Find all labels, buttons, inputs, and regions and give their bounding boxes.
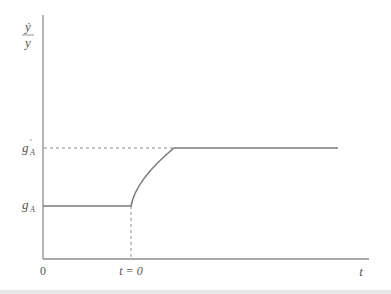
y-tick-g-prime-a: g ′ A [22, 138, 35, 157]
growth-rate-line [43, 148, 338, 206]
svg-text:y: y [23, 35, 31, 50]
svg-text:A: A [29, 205, 35, 214]
svg-text:g: g [22, 140, 29, 155]
x-axis-label: t [359, 264, 363, 279]
svg-text:A: A [29, 148, 35, 157]
bottom-border [0, 290, 391, 294]
chart: ẏ y g ′ A g A 0 t = 0 t [0, 0, 391, 294]
y-axis-label: ẏ y [22, 19, 34, 50]
x-tick-t-zero: t = 0 [119, 264, 142, 278]
x-tick-origin: 0 [40, 264, 46, 278]
svg-text:g: g [22, 197, 29, 212]
svg-text:ẏ: ẏ [23, 19, 31, 34]
y-tick-g-a: g A [22, 197, 35, 214]
svg-text:′: ′ [30, 138, 32, 147]
